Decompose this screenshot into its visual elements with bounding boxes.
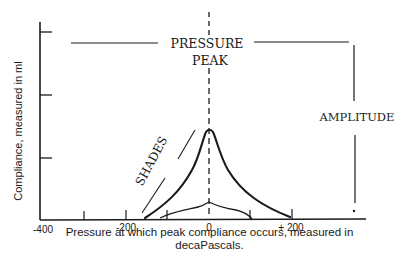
y-axis-label: Compliance, measured in ml <box>12 61 24 200</box>
x-axis-label-line1: Pressure at which peak compliance occurs… <box>0 226 419 239</box>
pressure-peak-label: PEAK <box>192 53 229 68</box>
amplitude-label: AMPLITUDE <box>319 110 395 124</box>
pressure-peak-label: PRESSURE <box>171 36 244 51</box>
amplitude-arrow-tip <box>353 210 355 212</box>
tympanogram-diagram: -400 -200 0 + 200 Compliance, measured i… <box>0 0 419 264</box>
shades-line <box>178 130 195 159</box>
shades-label: SHADES <box>133 134 171 188</box>
x-axis-label-line2: decaPascals. <box>0 239 419 252</box>
flat-compliance-curve <box>160 202 252 219</box>
x-axis <box>40 219 366 220</box>
x-axis-caption: Pressure at which peak compliance occurs… <box>0 226 419 252</box>
